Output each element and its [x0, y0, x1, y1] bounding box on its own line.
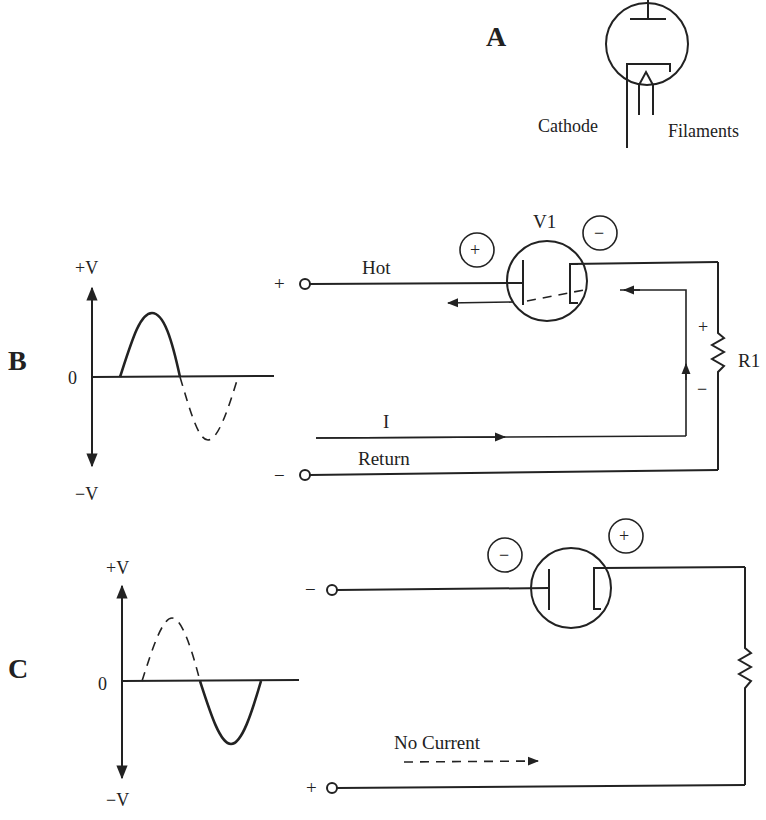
r1-plus: + [698, 317, 708, 337]
bottom-terminal-sign: + [306, 777, 317, 798]
v1-tube-envelope [507, 241, 587, 321]
pos-v-label: +V [75, 258, 98, 278]
zero-label: 0 [98, 674, 107, 694]
return-wire [310, 470, 718, 475]
bottom-terminal-sign: − [274, 465, 285, 486]
v1-label: V1 [533, 211, 556, 232]
circuit-c: − − + No Current + [305, 519, 751, 798]
current-right-arrow [316, 437, 505, 438]
svg-text:−: − [499, 545, 509, 565]
return-label: Return [358, 448, 410, 469]
x-axis [122, 680, 299, 681]
cathode [594, 568, 602, 609]
svg-text:−: − [594, 223, 604, 243]
top-terminal-sign: − [305, 579, 316, 600]
cathode-wire [602, 567, 745, 568]
top-wire [337, 588, 549, 590]
zero-label: 0 [68, 368, 77, 388]
positive-half-cycle-solid [120, 313, 180, 377]
top-terminal-sign: + [274, 273, 285, 294]
waveform-b: +V −V 0 [68, 258, 274, 504]
return-terminal [300, 470, 310, 480]
r1-resistor [712, 262, 724, 470]
plate-charge-badge: − [488, 538, 522, 572]
positive-half-cycle-dashed [142, 618, 200, 681]
current-label: I [383, 411, 389, 432]
panel-b-label: B [8, 345, 27, 376]
filament-element [639, 72, 653, 115]
waveform-c: +V −V 0 [98, 558, 299, 810]
v1-cathode [570, 264, 578, 303]
neg-v-label: −V [75, 484, 98, 504]
plate-charge-badge: + [460, 233, 494, 267]
inner-current-path [620, 290, 686, 436]
hot-wire [310, 283, 507, 284]
filaments-label: Filaments [668, 121, 739, 141]
bottom-terminal [327, 783, 337, 793]
panel-a: A Cathode Filaments [486, 0, 739, 148]
r1-label: R1 [738, 350, 760, 371]
svg-text:+: + [619, 526, 629, 546]
circuit-b: + Hot V1 + − I [274, 211, 760, 486]
svg-text:+: + [470, 240, 480, 260]
cathode-wire [570, 262, 718, 264]
negative-half-cycle-solid [200, 681, 261, 744]
no-current-dashed-arrow [404, 761, 538, 762]
cathode-charge-badge: + [609, 519, 643, 553]
bottom-wire [337, 785, 745, 788]
no-current-label: No Current [394, 732, 481, 753]
top-terminal [327, 585, 337, 595]
cathode-label: Cathode [538, 116, 598, 136]
electron-exit-arrow [448, 302, 513, 303]
vacuum-tube-rectifier-diagram: A Cathode Filaments B +V −V 0 + [0, 0, 766, 820]
r1-minus: − [697, 379, 707, 399]
panel-c-label: C [8, 653, 28, 684]
hot-label: Hot [362, 257, 391, 278]
pos-v-label: +V [106, 558, 129, 578]
negative-half-cycle-dashed [180, 377, 238, 440]
panel-a-label: A [486, 21, 507, 52]
electron-flow-dashed [527, 290, 584, 301]
panel-c: C +V −V 0 − − + [8, 519, 751, 810]
resistor [739, 567, 751, 785]
hot-terminal [300, 279, 310, 289]
cathode-charge-badge: − [583, 216, 617, 250]
panel-b: B +V −V 0 + Hot V1 + [8, 211, 760, 504]
neg-v-label: −V [106, 790, 129, 810]
